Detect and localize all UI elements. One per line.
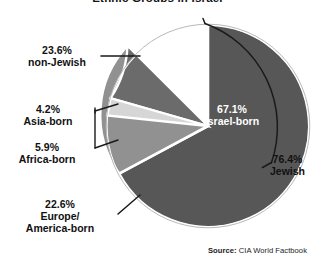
label-africa-born: 5.9% Africa-born [3,141,91,165]
label-africa-born-name: Africa-born [3,153,91,165]
label-israel-born: 67.1% Israel-born [182,103,282,128]
pie-chart-figure: Ethnic Groups in Israel 23.6% non- [0,0,315,263]
label-jewish-pct: 76.4% [260,153,315,165]
label-asia-born-name: Asia-born [6,115,90,127]
europe-america-leader-line [118,195,140,214]
label-non-jewish-name: non-Jewish [14,56,100,68]
label-europe-america-name-line1: Europe/ [4,210,116,222]
source-note: Source: CIA World Factbook [208,246,307,255]
label-non-jewish: 23.6% non-Jewish [14,44,100,68]
source-value: CIA World Factbook [239,246,307,255]
label-non-jewish-pct: 23.6% [14,44,100,56]
label-israel-born-pct: 67.1% [182,103,282,115]
label-jewish-name: Jewish [260,165,315,177]
label-europe-america-pct: 22.6% [4,198,116,210]
label-asia-born-pct: 4.2% [6,103,90,115]
label-israel-born-name: Israel-born [182,115,282,127]
label-europe-america-born: 22.6% Europe/ America-born [4,198,116,235]
label-jewish: 76.4% Jewish [260,153,315,177]
jewish-bracket-start-tick [203,19,205,24]
label-europe-america-name-line2: America-born [4,222,116,234]
source-label: Source: [208,246,237,255]
label-asia-born: 4.2% Asia-born [6,103,90,127]
label-africa-born-pct: 5.9% [3,141,91,153]
